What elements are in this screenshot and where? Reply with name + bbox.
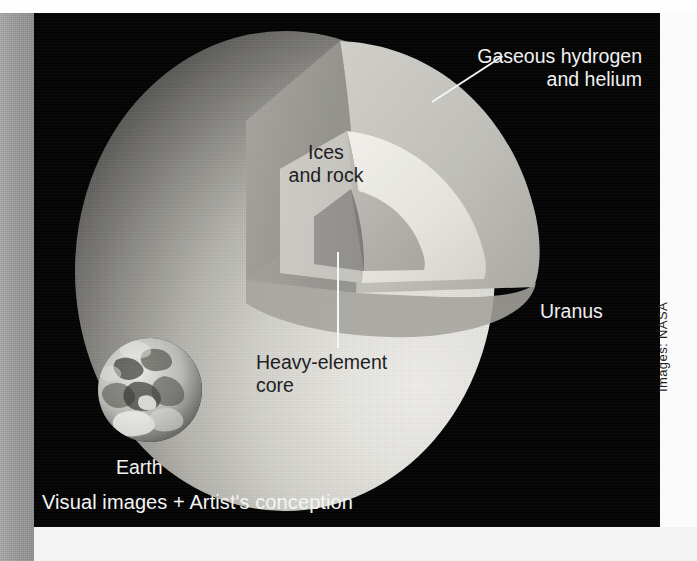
- page-gutter-band: [0, 13, 34, 561]
- label-ices-and-rock: Ices and rock: [266, 141, 386, 187]
- earth-globe: [98, 338, 202, 442]
- leader-line-core: [337, 252, 339, 348]
- uranus-figure-plate: Gaseous hydrogen and helium Ices and roc…: [34, 13, 660, 527]
- page-margin-bottom: [34, 527, 697, 561]
- page-margin-right: [660, 13, 697, 527]
- page-margin-top: [0, 0, 697, 14]
- image-credit-nasa: Images: NASA: [655, 302, 670, 392]
- figure-page: Gaseous hydrogen and helium Ices and roc…: [0, 0, 697, 561]
- label-gaseous-hydrogen-helium: Gaseous hydrogen and helium: [406, 45, 642, 91]
- label-uranus: Uranus: [540, 300, 603, 323]
- label-earth: Earth: [116, 456, 163, 479]
- label-heavy-element-core: Heavy-element core: [256, 351, 424, 397]
- figure-caption: Visual images + Artist's conception: [42, 491, 353, 515]
